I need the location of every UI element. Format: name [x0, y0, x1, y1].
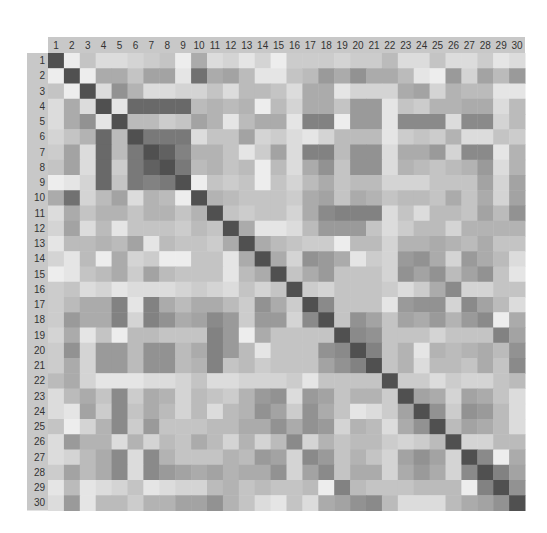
heatmap-cell-r1-c24: [414, 53, 430, 69]
heatmap-cell-r11-c22: [382, 206, 398, 222]
heatmap-cell-r21-c16: [287, 358, 303, 374]
heatmap-cell-r1-c28: [477, 53, 493, 69]
y-tick-label: 10: [34, 192, 46, 203]
heatmap-cell-r7-c9: [175, 145, 191, 161]
heatmap-cell-r15-c22: [382, 267, 398, 283]
heatmap-cell-r26-c26: [446, 434, 462, 450]
heatmap-cell-r6-c8: [159, 129, 175, 145]
heatmap-cell-r26-c6: [128, 434, 144, 450]
heatmap-cell-r26-c1: [48, 434, 64, 450]
heatmap-cell-r24-c19: [334, 404, 350, 420]
heatmap-cell-r23-c1: [48, 389, 64, 405]
x-tick-label: 28: [480, 40, 492, 51]
x-tick-label: 22: [384, 40, 396, 51]
heatmap-cell-r14-c23: [398, 251, 414, 267]
heatmap-cell-r1-c12: [223, 53, 239, 69]
heatmap-cell-r20-c25: [430, 343, 446, 359]
heatmap-cell-r2-c21: [366, 68, 382, 84]
heatmap-cell-r12-c8: [159, 221, 175, 237]
heatmap-cell-r23-c24: [414, 389, 430, 405]
heatmap-cell-r2-c8: [159, 68, 175, 84]
heatmap-cell-r29-c26: [446, 480, 462, 496]
heatmap-cell-r4-c6: [128, 99, 144, 115]
heatmap-cell-r28-c3: [80, 465, 96, 481]
heatmap-cell-r10-c7: [143, 190, 159, 206]
heatmap-cell-r28-c16: [287, 465, 303, 481]
heatmap-cell-r9-c16: [287, 175, 303, 191]
heatmap-cell-r28-c6: [128, 465, 144, 481]
heatmap-cell-r19-c9: [175, 328, 191, 344]
heatmap-cell-r24-c15: [271, 404, 287, 420]
heatmap-cell-r8-c1: [48, 160, 64, 176]
heatmap-cell-r24-c9: [175, 404, 191, 420]
heatmap-cell-r7-c4: [96, 145, 112, 161]
heatmap-cell-r9-c17: [302, 175, 318, 191]
heatmap-cell-r30-c16: [287, 495, 303, 511]
heatmap-cell-r13-c26: [446, 236, 462, 252]
heatmap-cell-r27-c10: [191, 450, 207, 466]
heatmap-cell-r11-c18: [318, 206, 334, 222]
heatmap-cell-r15-c11: [207, 267, 223, 283]
heatmap-cell-r23-c3: [80, 389, 96, 405]
heatmap-cell-r4-c5: [112, 99, 128, 115]
heatmap-cell-r2-c1: [48, 68, 64, 84]
heatmap-cell-r8-c17: [302, 160, 318, 176]
heatmap-cell-r7-c5: [112, 145, 128, 161]
heatmap-cell-r13-c28: [477, 236, 493, 252]
heatmap-cell-r15-c9: [175, 267, 191, 283]
heatmap-cell-r6-c26: [446, 129, 462, 145]
heatmap-cell-r2-c28: [477, 68, 493, 84]
x-tick-label: 8: [164, 40, 170, 51]
heatmap-cell-r19-c12: [223, 328, 239, 344]
heatmap-cell-r14-c13: [239, 251, 255, 267]
heatmap-cell-r17-c28: [477, 297, 493, 313]
heatmap-cell-r18-c29: [493, 312, 509, 328]
heatmap-cell-r8-c20: [350, 160, 366, 176]
heatmap-cell-r24-c12: [223, 404, 239, 420]
heatmap-cell-r3-c23: [398, 84, 414, 100]
heatmap-cell-r17-c1: [48, 297, 64, 313]
heatmap-cell-r21-c15: [271, 358, 287, 374]
heatmap-cell-r4-c17: [302, 99, 318, 115]
heatmap-cell-r5-c8: [159, 114, 175, 130]
heatmap-cell-r20-c7: [143, 343, 159, 359]
heatmap-cell-r21-c26: [446, 358, 462, 374]
heatmap-cell-r13-c22: [382, 236, 398, 252]
heatmap-cell-r30-c14: [255, 495, 271, 511]
heatmap-cell-r2-c12: [223, 68, 239, 84]
heatmap-cell-r5-c3: [80, 114, 96, 130]
heatmap-cell-r9-c24: [414, 175, 430, 191]
heatmap-cell-r29-c30: [509, 480, 525, 496]
heatmap-cell-r12-c6: [128, 221, 144, 237]
x-tick-label: 14: [257, 40, 269, 51]
heatmap-cell-r22-c10: [191, 373, 207, 389]
heatmap-cell-r22-c21: [366, 373, 382, 389]
heatmap-cell-r25-c13: [239, 419, 255, 435]
y-tick-label: 12: [34, 223, 46, 234]
heatmap-cell-r15-c3: [80, 267, 96, 283]
heatmap-cell-r29-c1: [48, 480, 64, 496]
heatmap-cell-r1-c26: [446, 53, 462, 69]
heatmap-cell-r8-c22: [382, 160, 398, 176]
heatmap-cell-r10-c12: [223, 190, 239, 206]
heatmap-cell-r6-c23: [398, 129, 414, 145]
x-tick-label: 3: [85, 40, 91, 51]
heatmap-cell-r17-c7: [143, 297, 159, 313]
heatmap-cell-r15-c23: [398, 267, 414, 283]
heatmap-cell-r13-c9: [175, 236, 191, 252]
heatmap-cell-r29-c19: [334, 480, 350, 496]
heatmap-cell-r7-c27: [461, 145, 477, 161]
heatmap-cell-r17-c13: [239, 297, 255, 313]
heatmap-cell-r23-c13: [239, 389, 255, 405]
heatmap-cell-r1-c30: [509, 53, 525, 69]
heatmap-cell-r15-c2: [64, 267, 80, 283]
heatmap-cell-r27-c24: [414, 450, 430, 466]
heatmap-cell-r11-c6: [128, 206, 144, 222]
heatmap-cell-r17-c15: [271, 297, 287, 313]
heatmap-cell-r18-c9: [175, 312, 191, 328]
heatmap-cell-r15-c30: [509, 267, 525, 283]
heatmap-cell-r14-c5: [112, 251, 128, 267]
heatmap-cell-r3-c6: [128, 84, 144, 100]
heatmap-cell-r21-c17: [302, 358, 318, 374]
heatmap-cell-r10-c24: [414, 190, 430, 206]
